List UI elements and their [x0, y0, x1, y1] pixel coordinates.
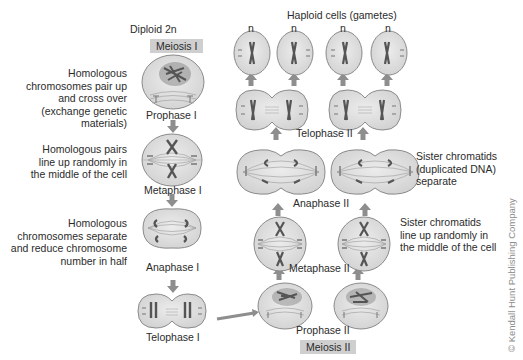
- copyright-notice: © Kendall Hunt Publishing Company: [506, 198, 517, 352]
- stage-label-telophase-2: Telophase II: [296, 127, 353, 140]
- prophase-2-cell-left: [258, 283, 312, 329]
- prophase-2-cell-right: [334, 283, 388, 329]
- gamete-cell-3: [326, 31, 362, 75]
- ploidy-label-1: n: [248, 22, 254, 35]
- ploidy-label-3: n: [340, 22, 346, 35]
- description-anaphase-2: Sister chromatids (duplicated DNA) separ…: [416, 150, 497, 188]
- telophase-1-cell: [138, 294, 206, 328]
- metaphase-1-cell: [142, 134, 202, 186]
- anaphase-1-cell: [143, 209, 201, 248]
- description-anaphase-1: Homologous chromosomes separate and redu…: [11, 217, 127, 267]
- diploid-label: Diploid 2n: [130, 23, 177, 36]
- stage-label-telophase-1: Telophase I: [146, 331, 200, 344]
- anaphase-2-cell-right: [331, 150, 419, 194]
- ploidy-label-4: n: [385, 22, 391, 35]
- stage-label-metaphase-1: Metaphase I: [144, 184, 202, 197]
- gamete-cell-2: [277, 31, 313, 75]
- telophase-2-cell-right: [329, 90, 401, 130]
- meiosis-2-badge: Meiosis II: [300, 340, 356, 354]
- haploid-label: Haploid cells (gametes): [287, 9, 397, 22]
- description-metaphase-1: Homologous pairs line up randomly in the…: [31, 143, 127, 181]
- meiosis-1-badge: Meiosis I: [150, 39, 203, 53]
- description-metaphase-2: Sister chromatids line up randomly in th…: [400, 216, 496, 254]
- gamete-cell-4: [371, 31, 407, 75]
- stage-label-prophase-2: Prophase II: [296, 324, 350, 337]
- stage-label-anaphase-2: Anaphase II: [293, 197, 349, 210]
- stage-label-metaphase-2: Metaphase II: [289, 262, 350, 275]
- anaphase-2-cell-left: [237, 150, 325, 194]
- telophase-2-cell-left: [236, 90, 308, 130]
- stage-label-anaphase-1: Anaphase I: [146, 261, 199, 274]
- transition-arrow: [217, 313, 254, 319]
- ploidy-label-2: n: [291, 22, 297, 35]
- gamete-cell-1: [234, 31, 270, 75]
- stage-label-prophase-1: Prophase I: [146, 109, 197, 122]
- prophase-1-cell: [142, 55, 204, 109]
- description-prophase-1: Homologous chromosomes pair up and cross…: [26, 67, 127, 130]
